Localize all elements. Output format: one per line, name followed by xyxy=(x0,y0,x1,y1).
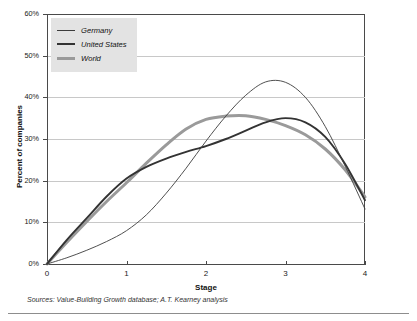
legend-label-united-states: United States xyxy=(81,40,127,49)
x-tick-mark xyxy=(286,261,287,265)
gridline xyxy=(47,222,365,223)
y-axis-title: Percent of companies xyxy=(15,87,24,207)
x-tick-mark xyxy=(47,261,48,265)
gridline xyxy=(47,139,365,140)
y-tick-mark xyxy=(43,97,48,98)
legend-item-united-states: United States xyxy=(57,37,131,51)
y-tick-label: 60% xyxy=(13,10,39,17)
legend-item-germany: Germany xyxy=(57,23,131,37)
legend-swatch-world xyxy=(57,57,75,60)
x-tick-label: 1 xyxy=(117,270,137,278)
legend-label-germany: Germany xyxy=(81,26,112,35)
y-tick-label: 0% xyxy=(13,260,39,267)
y-tick-label: 50% xyxy=(13,52,39,59)
legend-label-world: World xyxy=(81,54,101,63)
source-note: Sources: Value-Building Growth database;… xyxy=(27,296,228,303)
x-tick-mark xyxy=(206,261,207,265)
y-tick-mark xyxy=(43,222,48,223)
x-tick-label: 2 xyxy=(196,270,216,278)
y-tick-mark xyxy=(43,14,48,15)
chart-legend: Germany United States World xyxy=(51,18,137,72)
gridline xyxy=(47,97,365,98)
legend-item-world: World xyxy=(57,51,131,65)
x-tick-label: 0 xyxy=(37,270,57,278)
y-tick-label: 10% xyxy=(13,218,39,225)
y-tick-mark xyxy=(43,181,48,182)
x-tick-mark xyxy=(127,261,128,265)
chart-figure: 0%10%20%30%40%50%60% 01234 Percent of co… xyxy=(0,0,417,321)
y-tick-mark xyxy=(43,139,48,140)
x-tick-mark xyxy=(365,261,366,265)
x-axis-title: Stage xyxy=(47,283,365,292)
y-tick-mark xyxy=(43,56,48,57)
x-tick-label: 4 xyxy=(355,270,375,278)
x-tick-label: 3 xyxy=(276,270,296,278)
gridline xyxy=(47,181,365,182)
bottom-divider xyxy=(8,313,409,314)
legend-swatch-united-states xyxy=(57,43,75,45)
legend-swatch-germany xyxy=(57,30,75,31)
